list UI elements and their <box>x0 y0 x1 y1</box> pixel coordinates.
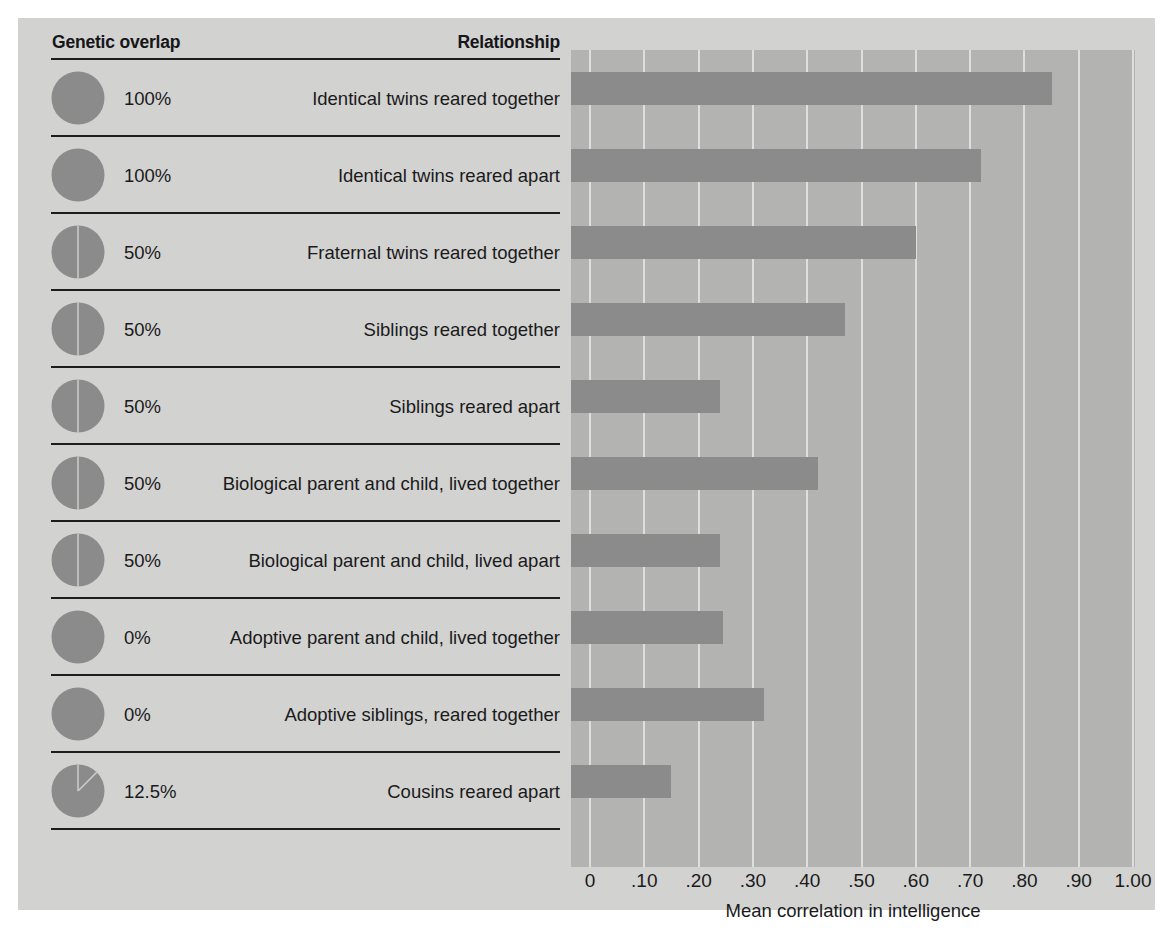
genetic-overlap-percent: 50% <box>124 242 161 264</box>
genetic-overlap-pie-icon <box>51 379 105 433</box>
relationship-label: Adoptive parent and child, lived togethe… <box>230 627 560 649</box>
x-axis-tick-label: 0 <box>585 870 596 892</box>
x-axis-tick-label: .50 <box>848 870 874 892</box>
x-axis-tick-label: .60 <box>903 870 929 892</box>
genetic-overlap-pie-icon <box>51 456 105 510</box>
table-row: 0%Adoptive siblings, reared together <box>32 676 560 753</box>
column-header-genetic-overlap: Genetic overlap <box>52 32 180 53</box>
table-row: 50%Siblings reared apart <box>32 368 560 445</box>
genetic-overlap-percent: 50% <box>124 319 161 341</box>
relationship-label: Biological parent and child, lived apart <box>248 550 560 572</box>
relationship-label: Identical twins reared apart <box>338 165 560 187</box>
gridline <box>1078 50 1080 867</box>
genetic-overlap-percent: 100% <box>124 88 171 110</box>
gridline <box>1023 50 1025 867</box>
genetic-overlap-pie-icon <box>51 148 105 202</box>
table-row: 100%Identical twins reared apart <box>32 137 560 214</box>
bar <box>571 765 671 798</box>
bar <box>571 226 916 259</box>
genetic-overlap-pie-icon <box>51 610 105 664</box>
x-axis-tick-labels: 0.10.20.30.40.50.60.70.80.901.00 <box>571 870 1151 896</box>
relationship-label: Fraternal twins reared together <box>307 242 560 264</box>
gridline <box>1132 50 1134 867</box>
genetic-overlap-pie-icon <box>51 533 105 587</box>
relationship-label: Identical twins reared together <box>312 88 560 110</box>
relationship-label: Siblings reared apart <box>389 396 560 418</box>
table-row: 0%Adoptive parent and child, lived toget… <box>32 599 560 676</box>
relationship-label: Cousins reared apart <box>387 781 560 803</box>
table-row: 50%Fraternal twins reared together <box>32 214 560 291</box>
chart-figure: Genetic overlap Relationship 100%Identic… <box>18 18 1155 910</box>
bar <box>571 688 764 721</box>
bar <box>571 303 845 336</box>
genetic-overlap-pie-icon <box>51 225 105 279</box>
bar <box>571 380 720 413</box>
genetic-overlap-table: Genetic overlap Relationship 100%Identic… <box>32 18 578 910</box>
x-axis-tick-label: .90 <box>1065 870 1091 892</box>
x-axis-tick-label: .70 <box>957 870 983 892</box>
x-axis-tick-label: .10 <box>631 870 657 892</box>
table-row: 100%Identical twins reared together <box>32 60 560 137</box>
genetic-overlap-pie-icon <box>51 302 105 356</box>
genetic-overlap-pie-icon <box>51 764 105 818</box>
x-axis-tick-label: .40 <box>794 870 820 892</box>
relationship-label: Adoptive siblings, reared together <box>284 704 560 726</box>
genetic-overlap-percent: 0% <box>124 627 151 649</box>
genetic-overlap-percent: 50% <box>124 396 161 418</box>
x-axis-tick-label: .20 <box>685 870 711 892</box>
bar <box>571 534 720 567</box>
bar <box>571 149 981 182</box>
genetic-overlap-percent: 50% <box>124 550 161 572</box>
genetic-overlap-percent: 12.5% <box>124 781 176 803</box>
table-row: 12.5%Cousins reared apart <box>32 753 560 830</box>
x-axis-tick-label: 1.00 <box>1115 870 1152 892</box>
genetic-overlap-pie-icon <box>51 71 105 125</box>
bar-chart-plot-area <box>571 50 1135 867</box>
genetic-overlap-percent: 50% <box>124 473 161 495</box>
genetic-overlap-pie-icon <box>51 687 105 741</box>
genetic-overlap-percent: 0% <box>124 704 151 726</box>
relationship-label: Biological parent and child, lived toget… <box>223 473 560 495</box>
table-row: 50%Siblings reared together <box>32 291 560 368</box>
bar <box>571 611 723 644</box>
genetic-overlap-percent: 100% <box>124 165 171 187</box>
row-divider <box>51 828 560 830</box>
bar <box>571 72 1052 105</box>
table-row: 50%Biological parent and child, lived to… <box>32 445 560 522</box>
x-axis-title: Mean correlation in intelligence <box>571 900 1135 922</box>
x-axis-tick-label: .30 <box>740 870 766 892</box>
relationship-label: Siblings reared together <box>364 319 560 341</box>
x-axis-tick-label: .80 <box>1011 870 1037 892</box>
bar <box>571 457 818 490</box>
table-row: 50%Biological parent and child, lived ap… <box>32 522 560 599</box>
column-header-relationship: Relationship <box>457 32 560 53</box>
